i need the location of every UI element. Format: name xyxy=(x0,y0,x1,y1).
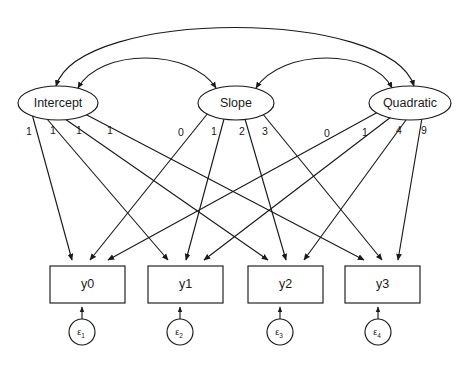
sem-path-diagram: Intercept Slope Quadratic 1 1 1 1 0 1 2 … xyxy=(0,0,467,366)
loading-paths-intercept xyxy=(32,114,364,260)
loading-label-intercept-y2: 1 xyxy=(76,124,82,136)
observed-variable-y3[interactable]: y3 xyxy=(345,266,420,303)
loading-path-intercept-y0 xyxy=(32,114,72,260)
observed-label-y1: y1 xyxy=(179,277,192,291)
error-paths xyxy=(82,307,378,319)
loading-labels-slope: 0 1 2 3 xyxy=(178,125,268,138)
loading-label-quadratic-y0: 0 xyxy=(324,127,330,139)
latent-label-intercept: Intercept xyxy=(34,96,83,110)
loading-label-quadratic-y3: 9 xyxy=(421,124,427,136)
error-term-e3[interactable]: ε3 xyxy=(267,319,293,345)
loading-label-slope-y3: 3 xyxy=(262,125,268,137)
loading-label-quadratic-y1: 1 xyxy=(362,126,368,138)
loading-path-quadratic-y1 xyxy=(204,117,391,260)
latent-factor-slope[interactable]: Slope xyxy=(198,86,274,120)
loading-label-slope-y1: 1 xyxy=(211,125,217,137)
error-term-e1[interactable]: ε1 xyxy=(69,319,95,345)
loading-label-intercept-y0: 1 xyxy=(26,125,32,137)
observed-variable-y1[interactable]: y1 xyxy=(148,266,223,303)
latent-label-slope: Slope xyxy=(220,96,252,110)
loading-path-slope-y1 xyxy=(186,119,224,260)
loading-path-quadratic-y3 xyxy=(398,118,422,260)
covariance-arc-intercept-quadratic xyxy=(56,28,414,87)
loading-path-slope-y2 xyxy=(245,119,286,260)
observed-label-y3: y3 xyxy=(376,277,389,291)
loading-label-intercept-y1: 1 xyxy=(50,124,56,136)
latent-factor-intercept[interactable]: Intercept xyxy=(18,86,98,120)
loading-labels-intercept: 1 1 1 1 xyxy=(26,124,113,137)
latent-factor-quadratic[interactable]: Quadratic xyxy=(369,86,451,120)
observed-variable-y2[interactable]: y2 xyxy=(248,266,323,303)
observed-label-y0: y0 xyxy=(81,277,94,291)
error-term-e4[interactable]: ε4 xyxy=(365,319,391,345)
loading-label-slope-y0: 0 xyxy=(178,126,184,138)
loading-labels-quadratic: 0 1 4 9 xyxy=(324,124,427,139)
diagram-canvas: Intercept Slope Quadratic 1 1 1 1 0 1 2 … xyxy=(0,0,467,366)
covariance-arcs xyxy=(56,28,414,89)
loading-label-intercept-y3: 1 xyxy=(107,124,113,136)
error-term-e2[interactable]: ε2 xyxy=(167,319,193,345)
covariance-arc-intercept-slope xyxy=(78,58,216,88)
observed-label-y2: y2 xyxy=(279,277,292,291)
latent-label-quadratic: Quadratic xyxy=(383,96,437,110)
covariance-arc-slope-quadratic xyxy=(256,58,392,88)
loading-label-slope-y2: 2 xyxy=(239,125,245,137)
loading-path-quadratic-y2 xyxy=(304,120,406,260)
loading-label-quadratic-y2: 4 xyxy=(396,124,402,136)
observed-variable-y0[interactable]: y0 xyxy=(50,266,125,303)
